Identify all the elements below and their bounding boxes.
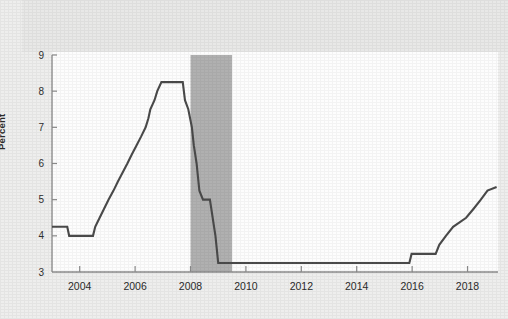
- svg-text:2012: 2012: [290, 280, 314, 292]
- svg-text:2018: 2018: [456, 280, 480, 292]
- svg-text:2010: 2010: [234, 280, 258, 292]
- data-series-prime-rate: [52, 82, 497, 263]
- svg-text:2014: 2014: [345, 280, 369, 292]
- chart-axes: [52, 55, 498, 272]
- scanned-page: Percent 34567892004200620082010201220142…: [0, 0, 508, 319]
- svg-text:8: 8: [38, 86, 44, 97]
- svg-text:7: 7: [38, 122, 44, 133]
- line-chart: 345678920042006200820102012201420162018: [0, 0, 508, 319]
- svg-text:9: 9: [38, 50, 44, 61]
- svg-text:2016: 2016: [400, 280, 424, 292]
- svg-text:2004: 2004: [68, 280, 92, 292]
- svg-text:2006: 2006: [123, 280, 147, 292]
- svg-text:3: 3: [38, 267, 44, 278]
- svg-text:6: 6: [38, 158, 44, 169]
- axis-tick-labels: 345678920042006200820102012201420162018: [38, 50, 479, 292]
- svg-text:4: 4: [38, 230, 44, 241]
- svg-text:2008: 2008: [179, 280, 203, 292]
- svg-text:5: 5: [38, 194, 44, 205]
